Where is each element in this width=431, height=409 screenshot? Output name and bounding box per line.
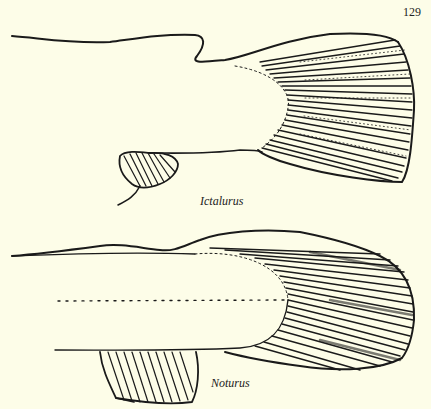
figure-caption-ictalurus: Ictalurus — [200, 194, 243, 209]
ictalurus-illustration — [12, 33, 414, 205]
figure-caption-noturus: Noturus — [211, 376, 250, 391]
